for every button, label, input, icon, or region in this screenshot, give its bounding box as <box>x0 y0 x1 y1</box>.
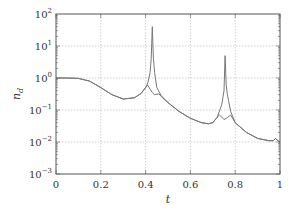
grid <box>56 14 280 174</box>
x-tick-labels: 0 0.2 0.4 0.6 0.8 1 <box>53 179 283 190</box>
y-tick-label: 10−3 <box>29 167 52 180</box>
series-lines <box>56 27 280 142</box>
y-axis-label: nd <box>10 88 25 100</box>
x-tick-label: 1 <box>277 179 283 190</box>
chart: 0 0.2 0.4 0.6 0.8 1 102 101 100 10−1 10−… <box>0 0 294 211</box>
y-tick-label: 101 <box>35 39 52 52</box>
x-tick-label: 0.4 <box>138 179 154 190</box>
plot-frame <box>56 14 280 174</box>
x-tick-label: 0.6 <box>182 179 198 190</box>
y-tick-labels: 102 101 100 10−1 10−2 10−3 <box>29 7 52 180</box>
minor-ticks <box>56 14 280 174</box>
y-tick-label: 10−1 <box>29 103 52 116</box>
y-tick-label: 100 <box>35 71 52 84</box>
x-axis-label: t <box>166 193 171 206</box>
x-tick-label: 0.2 <box>93 179 109 190</box>
y-tick-label: 102 <box>35 7 52 20</box>
series-line-spiked <box>56 27 280 142</box>
x-tick-label: 0 <box>53 179 59 190</box>
x-tick-label: 0.8 <box>227 179 243 190</box>
y-tick-label: 10−2 <box>29 135 52 148</box>
